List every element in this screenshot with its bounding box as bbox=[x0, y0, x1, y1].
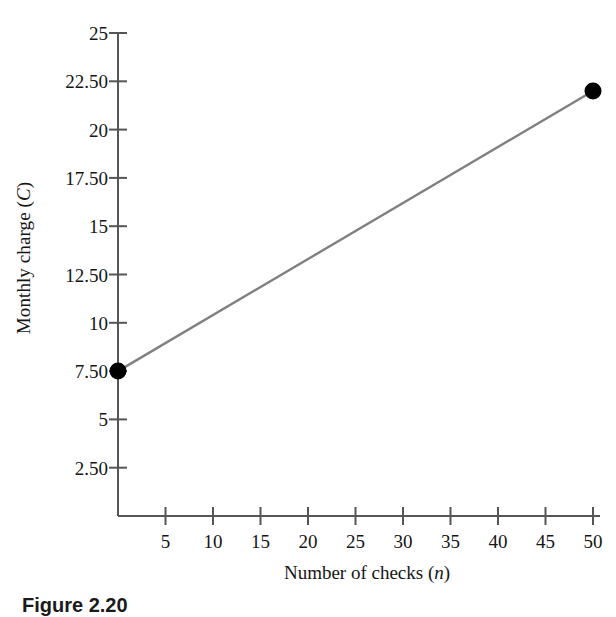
data-point-marker bbox=[110, 363, 127, 380]
tick-marks-group bbox=[109, 33, 593, 525]
data-point-marker bbox=[585, 82, 602, 99]
data-series-group bbox=[118, 91, 593, 371]
figure-caption: Figure 2.20 bbox=[22, 594, 128, 617]
axes-group bbox=[118, 33, 600, 516]
data-line bbox=[118, 91, 593, 371]
